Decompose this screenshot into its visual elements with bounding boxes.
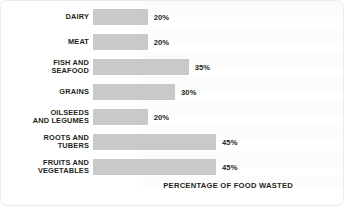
bar-row: ROOTS ANDTUBERS45%: [1, 134, 344, 150]
bar: [93, 134, 216, 150]
category-label-line1: GRAINS: [59, 87, 89, 96]
bar-track: 45%: [93, 159, 323, 175]
category-label-line2: AND LEGUMES: [7, 117, 89, 125]
bar-row: FRUITS ANDVEGETABLES45%: [1, 159, 344, 175]
bar-value-label: 20%: [154, 13, 170, 22]
category-label-line2: VEGETABLES: [7, 167, 89, 175]
category-label-line1: DAIRY: [66, 12, 89, 21]
bar: [93, 34, 148, 50]
bar-value-label: 30%: [181, 88, 197, 97]
bar-value-label: 35%: [195, 63, 211, 72]
category-label: FRUITS ANDVEGETABLES: [7, 159, 89, 176]
bar-track: 35%: [93, 59, 323, 75]
bar-row: FISH ANDSEAFOOD35%: [1, 59, 344, 75]
food-waste-bar-chart-card: DAIRY20%MEAT20%FISH ANDSEAFOOD35%GRAINS3…: [0, 0, 344, 206]
category-label-line1: MEAT: [68, 37, 89, 46]
axis-caption: PERCENTAGE OF FOOD WASTED: [1, 181, 293, 190]
category-label: GRAINS: [7, 88, 89, 96]
bar-row: MEAT20%: [1, 34, 344, 50]
category-label: MEAT: [7, 38, 89, 46]
bar: [93, 109, 148, 125]
bar: [93, 84, 175, 100]
bar-value-label: 45%: [222, 163, 238, 172]
bar-row: GRAINS30%: [1, 84, 344, 100]
bar: [93, 159, 216, 175]
bar-row: DAIRY20%: [1, 9, 344, 25]
category-label: DAIRY: [7, 13, 89, 21]
bar-row: OILSEEDSAND LEGUMES20%: [1, 109, 344, 125]
bar-track: 30%: [93, 84, 323, 100]
bar-track: 45%: [93, 134, 323, 150]
bar-value-label: 20%: [154, 113, 170, 122]
bar-value-label: 45%: [222, 138, 238, 147]
category-label-line2: SEAFOOD: [7, 67, 89, 75]
bar-track: 20%: [93, 34, 323, 50]
category-label-line2: TUBERS: [7, 142, 89, 150]
category-label: OILSEEDSAND LEGUMES: [7, 109, 89, 126]
category-label: ROOTS ANDTUBERS: [7, 134, 89, 151]
bar-value-label: 20%: [154, 38, 170, 47]
category-label: FISH ANDSEAFOOD: [7, 59, 89, 76]
bar-track: 20%: [93, 109, 323, 125]
bar: [93, 9, 148, 25]
bar-track: 20%: [93, 9, 323, 25]
bar: [93, 59, 189, 75]
